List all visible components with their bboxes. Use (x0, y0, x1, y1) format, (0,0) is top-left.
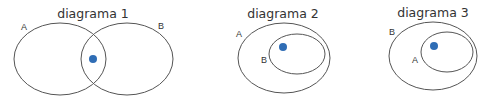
venn-diagrams-figure: diagrama 1 A B diagrama 2 A B diagrama 3… (0, 0, 487, 104)
set-a-ellipse (421, 32, 473, 72)
diagram-2: diagrama 2 A B (236, 6, 330, 93)
set-b-label: B (389, 27, 395, 37)
diagram-2-title: diagrama 2 (247, 6, 319, 21)
set-b-label: B (261, 55, 267, 65)
set-a-ellipse (238, 23, 330, 93)
element-dot (430, 42, 438, 50)
element-dot (89, 55, 97, 63)
set-b-ellipse (389, 22, 477, 90)
diagram-1-title: diagrama 1 (57, 6, 129, 21)
set-b-label: B (158, 21, 164, 31)
element-dot (279, 43, 287, 51)
diagram-3-title: diagrama 3 (397, 5, 469, 20)
set-a-label: A (236, 29, 242, 39)
diagram-1: diagrama 1 A B (14, 6, 173, 95)
set-b-ellipse (269, 34, 325, 74)
set-a-label: A (412, 55, 418, 65)
diagram-3: diagrama 3 B A (389, 5, 477, 90)
set-a-label: A (21, 22, 27, 32)
